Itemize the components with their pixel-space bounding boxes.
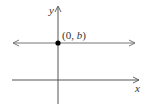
x-axis-label: x — [134, 82, 140, 94]
point-label: (0, b) — [62, 29, 86, 42]
x-axis — [12, 77, 139, 83]
coordinate-diagram: y x (0, b) — [0, 0, 151, 112]
y-axis — [55, 6, 61, 104]
point-0-b — [55, 40, 60, 45]
y-axis-label: y — [48, 4, 54, 16]
